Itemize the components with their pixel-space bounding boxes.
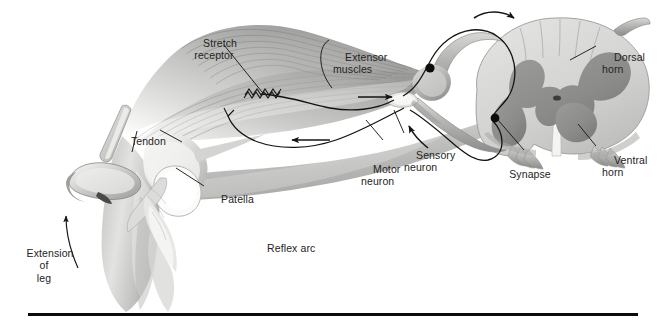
leader-sensory-neuron — [394, 110, 404, 133]
label-stretch-receptor: Stretch receptor — [183, 24, 245, 74]
sensory-cell-body — [425, 63, 434, 72]
label-extension-of-leg: Extension of leg — [8, 234, 80, 297]
label-tendon: Tendon — [119, 122, 169, 160]
label-synapse: Synapse — [497, 155, 551, 193]
label-dorsal-horn: Dorsal horn — [602, 38, 662, 88]
dorsal-root-arrow — [474, 12, 514, 18]
label-extensor-muscles: Extensor muscles — [333, 38, 403, 88]
label-reflex-arc: Reflex arc — [255, 229, 325, 267]
label-patella: Patella — [209, 180, 259, 218]
label-ventral-horn: Ventral horn — [602, 141, 662, 191]
label-sensory-neuron: Sensory neuron — [404, 136, 456, 186]
bottom-rule — [28, 313, 638, 316]
motor-cell-body-synapse — [491, 114, 500, 123]
reflex-arc-figure: Stretch receptor Extensor muscles Dorsal… — [0, 0, 667, 328]
label-motor-neuron: Motor neuron — [361, 150, 409, 200]
